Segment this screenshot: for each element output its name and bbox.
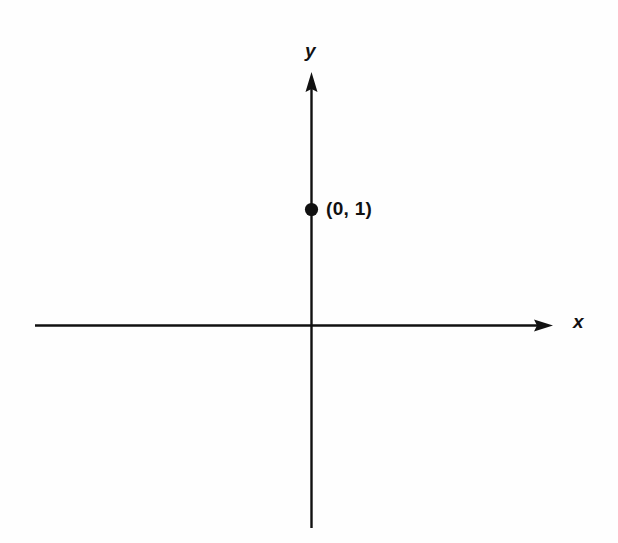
y-axis-label: y [305,41,316,60]
x-axis-label: x [573,312,584,331]
point-marker-0-1 [305,203,318,216]
axes-canvas [0,0,618,543]
y-axis-arrowhead [306,72,318,92]
coordinate-plane-figure: y x (0, 1) [0,0,618,543]
point-label-0-1: (0, 1) [326,199,372,218]
